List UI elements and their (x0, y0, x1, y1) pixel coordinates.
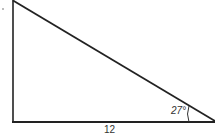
stray-dot (2, 8, 4, 10)
angle-label: 27° (170, 105, 186, 116)
base-length-label: 12 (104, 124, 116, 135)
angle-arc (188, 106, 190, 122)
hypotenuse (13, 1, 215, 122)
triangle-diagram: 27° 12 (0, 0, 215, 135)
